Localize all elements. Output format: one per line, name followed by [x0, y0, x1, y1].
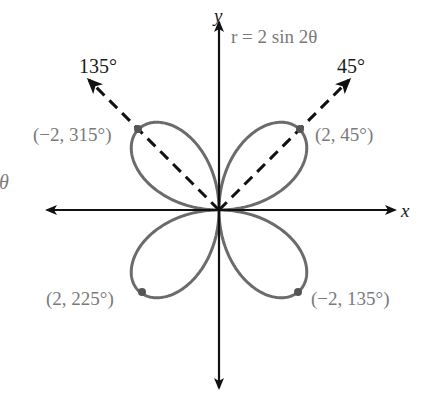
point-2-225: [138, 288, 146, 296]
polar-rose-figure: y r = 2 sin 2θ x 135° 45° (−2, 315°) (2,…: [0, 0, 436, 396]
edge-theta-fragment: θ: [0, 172, 9, 192]
point-label-2-45: (2, 45°): [315, 125, 373, 144]
x-axis-label: x: [401, 201, 409, 220]
ray-135-label: 135°: [79, 56, 117, 76]
point-label-2-225: (2, 225°): [46, 289, 114, 308]
point-label-neg2-315: (−2, 315°): [33, 125, 111, 144]
point-label-neg2-135: (−2, 135°): [311, 289, 389, 308]
y-axis-label: y: [214, 6, 222, 25]
ray-135: [89, 80, 219, 210]
equation-label: r = 2 sin 2θ: [231, 27, 317, 46]
point-neg2-135: [294, 288, 302, 296]
ray-45: [219, 80, 349, 210]
point-neg2-315: [134, 125, 142, 133]
point-2-45: [296, 125, 304, 133]
figure-canvas: [0, 0, 436, 396]
ray-45-label: 45°: [337, 56, 365, 76]
